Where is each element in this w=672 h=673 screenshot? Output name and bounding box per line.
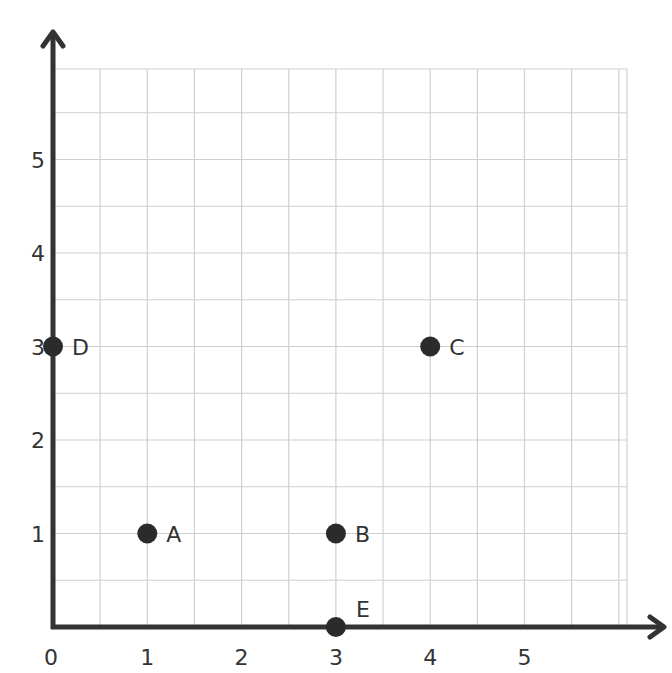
x-tick-label: 1: [140, 645, 154, 670]
x-tick-label: 2: [235, 645, 249, 670]
point-label-a: A: [166, 522, 181, 547]
point-label-e: E: [356, 597, 370, 622]
y-tick-label: 2: [31, 428, 45, 453]
point-label-c: C: [449, 335, 464, 360]
point-b: [326, 524, 346, 544]
y-tick-labels: 12345: [31, 148, 45, 547]
x-tick-label: 4: [423, 645, 437, 670]
x-tick-label: 3: [329, 645, 343, 670]
point-label-b: B: [355, 522, 370, 547]
point-c: [420, 337, 440, 357]
x-tick-label: 5: [518, 645, 532, 670]
grid-lines: [53, 69, 627, 627]
x-tick-label: 0: [44, 645, 58, 670]
point-d: [43, 337, 63, 357]
coordinate-plane: 012345 12345 ABCDE: [0, 0, 672, 673]
y-tick-label: 1: [31, 522, 45, 547]
y-tick-label: 5: [31, 148, 45, 173]
point-e: [326, 617, 346, 637]
axes: [43, 32, 664, 637]
point-label-d: D: [72, 335, 89, 360]
y-tick-label: 4: [31, 241, 45, 266]
point-a: [137, 524, 157, 544]
x-tick-labels: 012345: [44, 645, 532, 670]
y-tick-label: 3: [31, 335, 45, 360]
data-points: ABCDE: [43, 335, 465, 638]
